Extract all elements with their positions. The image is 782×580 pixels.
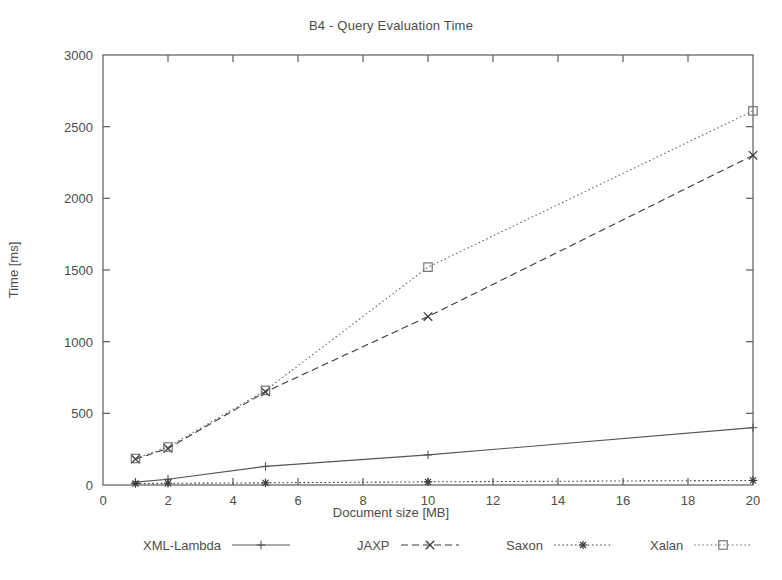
legend-label-2: Saxon: [506, 538, 543, 553]
legend-item-1[interactable]: JAXP: [357, 533, 461, 557]
y-axis-ticks: 050010001500200025003000: [64, 48, 753, 493]
svg-text:1500: 1500: [64, 263, 93, 278]
axes-frame: [103, 55, 753, 485]
legend-label-1: JAXP: [357, 538, 390, 553]
chart-legend: XML-Lambda JAXP Saxon Xalan: [0, 533, 782, 557]
chart-figure: B4 - Query Evaluation Time Time [ms] Doc…: [0, 0, 782, 580]
legend-key-solid-plus: [230, 538, 292, 552]
chart-title: B4 - Query Evaluation Time: [0, 18, 782, 33]
svg-text:3000: 3000: [64, 48, 93, 63]
legend-label-0: XML-Lambda: [143, 538, 221, 553]
legend-item-3[interactable]: Xalan: [650, 533, 754, 557]
y-axis-label: Time [ms]: [6, 210, 21, 330]
series-xalan: [131, 107, 757, 463]
series-jaxp: [131, 151, 757, 463]
x-axis-label: Document size [MB]: [0, 505, 782, 520]
series-xml-lambda: [131, 423, 757, 486]
svg-text:1000: 1000: [64, 335, 93, 350]
legend-label-3: Xalan: [650, 538, 683, 553]
legend-item-2[interactable]: Saxon: [506, 533, 614, 557]
svg-text:2000: 2000: [64, 191, 93, 206]
series-saxon: [131, 476, 757, 488]
svg-text:500: 500: [71, 406, 93, 421]
x-axis-ticks: 02468101214161820: [99, 55, 760, 508]
legend-key-dotted-star: [552, 538, 614, 552]
svg-text:0: 0: [86, 478, 93, 493]
legend-key-dotted-square: [692, 538, 754, 552]
legend-item-0[interactable]: XML-Lambda: [143, 533, 292, 557]
plot-area: 050010001500200025003000 024681012141618…: [0, 0, 782, 580]
legend-key-dashed-cross: [399, 538, 461, 552]
data-series-group: [131, 107, 757, 488]
svg-text:2500: 2500: [64, 120, 93, 135]
